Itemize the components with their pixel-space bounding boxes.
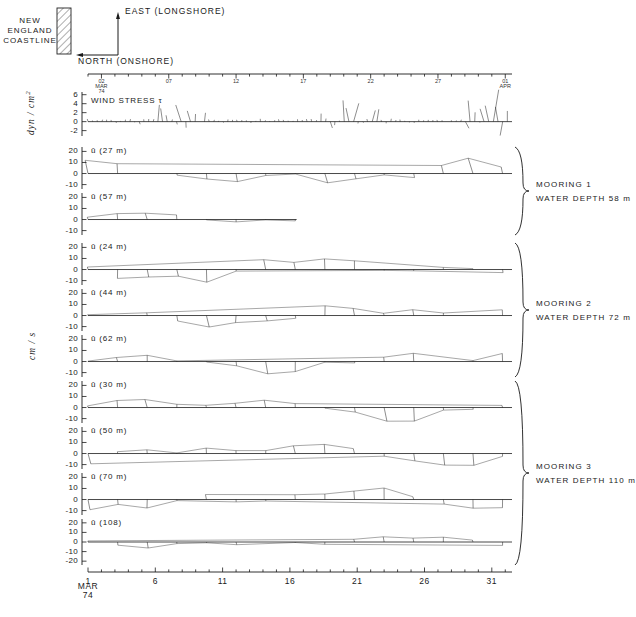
- y-axis-tick-label: 2: [46, 108, 78, 117]
- y-axis-tick-label: 20: [46, 426, 78, 435]
- panel-label-u-30m: ū (30 m): [91, 380, 127, 389]
- envelope-lower: [117, 270, 503, 282]
- y-axis-tick-label: 0: [46, 357, 78, 366]
- envelope-upper: [87, 213, 176, 217]
- envelope-upper: [88, 353, 502, 361]
- mooring-brace-3: [515, 381, 529, 565]
- y-axis-tick-label: -10: [46, 322, 78, 331]
- y-axis-tick-label: 20: [46, 334, 78, 343]
- top-axis-tick-label: 07: [153, 79, 185, 84]
- y-axis-tick-label: 6: [46, 90, 78, 99]
- y-axis-tick-label: 0: [46, 265, 78, 274]
- stick-vectors: [88, 400, 503, 422]
- y-axis-tick-label: 20: [46, 146, 78, 155]
- y-axis-tick-label: -2: [46, 126, 78, 135]
- envelope-lower: [90, 501, 502, 510]
- mooring-name-3: MOORING 3: [536, 460, 592, 473]
- bottom-axis-tick-label: 6: [139, 576, 171, 586]
- panel-y-axis: [82, 519, 87, 565]
- envelope-lower: [118, 543, 503, 549]
- bottom-time-axis: [88, 568, 512, 573]
- top-axis-tick-label: 12: [220, 79, 252, 84]
- y-axis-tick-label: -10: [46, 506, 78, 515]
- envelope-lower: [325, 408, 473, 421]
- y-axis-tick-label: 10: [46, 391, 78, 400]
- top-axis-tick-label: 01 APR: [489, 79, 521, 89]
- y-axis-tick-label: 10: [46, 437, 78, 446]
- y-axis-tick-label: -10: [46, 180, 78, 189]
- envelope-upper: [85, 158, 501, 167]
- y-axis-tick-label: 0: [46, 537, 78, 546]
- y-axis-tick-label: -10: [46, 226, 78, 235]
- y-axis-tick-label: -10: [46, 414, 78, 423]
- panel-y-axis: [82, 427, 87, 469]
- envelope-upper: [87, 259, 472, 269]
- y-axis-tick-label: 10: [46, 483, 78, 492]
- y-axis-tick-label: 10: [46, 527, 78, 536]
- y-axis-tick-label: 0: [46, 403, 78, 412]
- envelope-upper: [206, 488, 413, 497]
- envelope-upper: [88, 400, 502, 406]
- y-axis-tick-label: 4: [46, 99, 78, 108]
- mooring-depth-3: WATER DEPTH 110 m: [536, 474, 636, 487]
- panel-label-u-44m: ū (44 m): [91, 288, 127, 297]
- stick-vectors: [88, 488, 503, 510]
- y-axis-tick-label: 20: [46, 288, 78, 297]
- panel-y-axis: [82, 92, 87, 136]
- y-axis-tick-label: 10: [46, 345, 78, 354]
- envelope-lower: [178, 318, 296, 327]
- y-axis-tick-label: 0: [46, 311, 78, 320]
- y-axis-tick-label: 0: [46, 215, 78, 224]
- bottom-axis-tick-label: 21: [341, 576, 373, 586]
- bottom-axis-tick-label: 11: [207, 576, 239, 586]
- bottom-axis-start-caption: MAR 74: [68, 582, 108, 600]
- mooring-name-2: MOORING 2: [536, 297, 592, 310]
- y-axis-tick-label: 10: [46, 253, 78, 262]
- mooring-depth-2: WATER DEPTH 72 m: [536, 311, 631, 324]
- panel-y-axis: [82, 289, 87, 331]
- bottom-axis-tick-label: 26: [409, 576, 441, 586]
- y-axis-tick-label: 20: [46, 192, 78, 201]
- stick-vectors: [87, 213, 295, 222]
- envelope-lower: [207, 362, 355, 374]
- y-axis-tick-label: 20: [46, 518, 78, 527]
- panel-label-u-70m: ū (70 m): [91, 472, 127, 481]
- envelope-upper: [117, 444, 353, 453]
- top-axis-tick-label: 02 MAR 74: [85, 79, 117, 94]
- panel-label-u-108: ū (108): [91, 518, 122, 527]
- panel-y-axis: [82, 193, 87, 235]
- panel-y-axis: [82, 147, 87, 189]
- mooring-brace-1: [515, 147, 529, 235]
- top-axis-tick-label: 22: [355, 79, 387, 84]
- y-axis-tick-label: -10: [46, 547, 78, 556]
- panel-y-axis: [82, 335, 87, 377]
- y-axis-tick-label: 10: [46, 157, 78, 166]
- panel-label-wind-stress: WIND STRESS τ: [91, 96, 162, 105]
- y-axis-tick-label: 20: [46, 242, 78, 251]
- panel-label-u-27m: ū (27 m): [91, 146, 127, 155]
- mooring-brace-2: [515, 243, 529, 377]
- bottom-axis-tick-label: 31: [476, 576, 508, 586]
- panel-label-u-24m: ū (24 m): [91, 242, 127, 251]
- y-axis-tick-label: -20: [46, 556, 78, 565]
- panel-label-u-57m: ū (57 m): [91, 192, 127, 201]
- envelope-lower: [206, 220, 295, 222]
- y-axis-tick-label: -10: [46, 276, 78, 285]
- y-axis-tick-label: 0: [46, 117, 78, 126]
- panel-y-axis: [82, 381, 87, 423]
- y-axis-tick-label: 0: [46, 169, 78, 178]
- mooring-name-1: MOORING 1: [536, 178, 592, 191]
- y-axis-tick-label: 20: [46, 380, 78, 389]
- envelope-lower: [91, 456, 503, 465]
- panel-label-u-62m: ū (62 m): [91, 334, 127, 343]
- y-axis-tick-label: 10: [46, 203, 78, 212]
- y-axis-tick-label: -10: [46, 460, 78, 469]
- stick-vectors: [88, 306, 503, 327]
- envelope-upper: [88, 306, 503, 315]
- top-axis-tick-label: 27: [422, 79, 454, 84]
- y-axis-tick-label: 0: [46, 495, 78, 504]
- panel-y-axis: [82, 243, 87, 285]
- panel-y-axis: [82, 473, 87, 515]
- y-axis-tick-label: -10: [46, 368, 78, 377]
